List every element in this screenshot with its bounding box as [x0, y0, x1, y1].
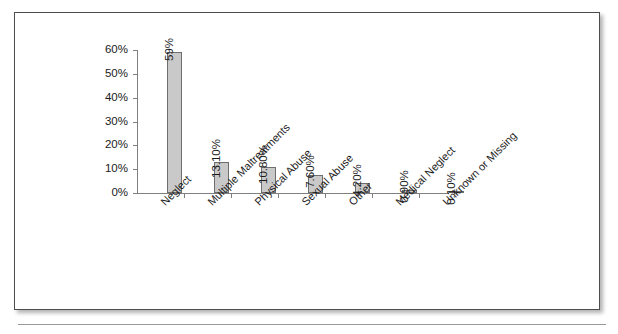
x-axis-tick — [372, 193, 373, 198]
y-axis-tick-label: 10% — [105, 163, 128, 175]
y-axis-tick — [133, 98, 137, 99]
bar-chart: 0% 10% 20% 30% 40% — [15, 13, 601, 311]
x-axis-category-label: Unknown or Missing — [441, 130, 519, 208]
bar-value-label: 59% — [163, 38, 175, 61]
x-axis-tick — [231, 193, 232, 198]
y-axis-tick-label: 30% — [105, 116, 128, 128]
x-axis-tick — [325, 193, 326, 198]
y-axis-tick-label: 20% — [105, 140, 128, 152]
y-axis-tick-label: 60% — [105, 44, 128, 56]
y-axis-tick — [133, 193, 137, 194]
plot-area: 0% 10% 20% 30% 40% — [137, 50, 449, 193]
y-axis-tick — [133, 50, 137, 51]
y-axis-line — [137, 50, 138, 193]
footer-divider — [18, 324, 606, 325]
y-axis-tick — [133, 145, 137, 146]
y-axis-tick — [133, 122, 137, 123]
y-axis-tick — [133, 74, 137, 75]
bar-neglect: 59% — [167, 52, 182, 193]
figure-frame: 0% 10% 20% 30% 40% — [14, 12, 600, 310]
bar-value-label: 13.10% — [210, 139, 222, 178]
y-axis-tick-label: 40% — [105, 92, 128, 104]
screenshot-page: 0% 10% 20% 30% 40% — [0, 0, 618, 334]
y-axis-tick — [133, 169, 137, 170]
x-axis-tick — [419, 193, 420, 198]
x-axis-tick — [184, 193, 185, 198]
x-axis-tick — [278, 193, 279, 198]
y-axis-tick-label: 0% — [111, 187, 128, 199]
y-axis-tick-label: 50% — [105, 68, 128, 80]
